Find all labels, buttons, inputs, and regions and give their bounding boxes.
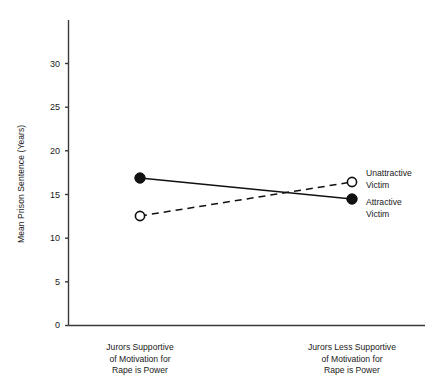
data-point-unattractive-right (347, 177, 356, 186)
data-point-attractive-right (347, 194, 357, 204)
legend-unattractive-victim-line2: Victim (366, 180, 389, 192)
y-tick-label-20: 20 (22, 146, 60, 156)
y-tick-label-30: 30 (22, 59, 60, 69)
y-tick-label-5: 5 (22, 277, 60, 287)
x-axis-group-label-left-line3: Rape is Power (70, 365, 210, 377)
data-point-unattractive-left (135, 211, 144, 220)
x-axis-group-label-left: Jurors Supportive of Motivation for Rape… (70, 342, 210, 377)
y-axis-title: Mean Prison Sentence (Years) (17, 125, 26, 243)
x-axis-group-label-right-line1: Jurors Less Supportive (277, 342, 427, 354)
line-chart: Mean Prison Sentence (Years) 0 5 10 15 2… (0, 0, 433, 384)
legend-unattractive-victim-line1: Unattractive (366, 168, 412, 180)
plot-area (0, 0, 433, 384)
y-tick-label-25: 25 (22, 102, 60, 112)
x-axis-group-label-right: Jurors Less Supportive of Motivation for… (277, 342, 427, 377)
x-axis-group-label-left-line1: Jurors Supportive (70, 342, 210, 354)
y-tick-label-15: 15 (22, 190, 60, 200)
x-axis-group-label-right-line2: of Motivation for (277, 354, 427, 366)
data-point-attractive-left (135, 173, 145, 183)
y-tick-label-0: 0 (22, 320, 60, 330)
series-line-attractive-victim (140, 178, 352, 199)
x-axis-group-label-left-line2: of Motivation for (70, 354, 210, 366)
legend-attractive-victim-line1: Attractive (366, 197, 402, 209)
x-axis-group-label-right-line3: Rape is Power (277, 365, 427, 377)
y-tick-label-10: 10 (22, 233, 60, 243)
series-line-unattractive-victim (140, 182, 352, 216)
legend-attractive-victim-line2: Victim (366, 209, 389, 221)
